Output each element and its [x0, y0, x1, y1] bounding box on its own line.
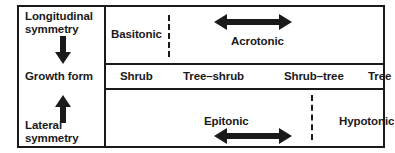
arrow-shaft [224, 19, 282, 25]
hypotonic-label: Hypotonic [339, 115, 394, 127]
arrow-head-right [279, 14, 292, 30]
arrow-head-right [279, 128, 292, 144]
axis-column: Longitudinal symmetry Growth form Latera… [19, 7, 106, 146]
epitonic-hypotonic-divider [311, 95, 313, 140]
longitudinal-symmetry-label: Longitudinal symmetry [19, 10, 106, 35]
longitudinal-symmetry-row: Basitonic Acrotonic [106, 7, 383, 65]
lateral-symmetry-label: Lateral symmetry [19, 119, 106, 144]
basitonic-acrotonic-divider [168, 15, 170, 57]
lateral-symmetry-row: Epitonic Hypotonic [106, 90, 383, 146]
growth-form-shrub: Shrub [120, 70, 153, 82]
growth-form-tree: Tree [368, 70, 391, 82]
diagram-frame: Longitudinal symmetry Growth form Latera… [17, 5, 385, 148]
down-arrow-icon [55, 36, 71, 64]
arrow-head [55, 52, 71, 64]
epitonic-range-arrow-icon [214, 128, 292, 144]
basitonic-label: Basitonic [111, 28, 162, 40]
growth-form-shrub-tree: Shrub–tree [284, 70, 344, 82]
epitonic-label: Epitonic [204, 115, 249, 127]
acrotonic-label: Acrotonic [231, 35, 284, 47]
acrotonic-range-arrow-icon [214, 14, 292, 30]
growth-form-label: Growth form [19, 70, 106, 83]
rows-column: Basitonic Acrotonic Shrub Tree–shrub Shr… [106, 7, 383, 146]
growth-form-tree-shrub: Tree–shrub [183, 70, 244, 82]
growth-form-row: Shrub Tree–shrub Shrub–tree Tree [106, 65, 383, 90]
arrow-shaft [60, 36, 66, 53]
arrow-shaft [224, 133, 282, 139]
